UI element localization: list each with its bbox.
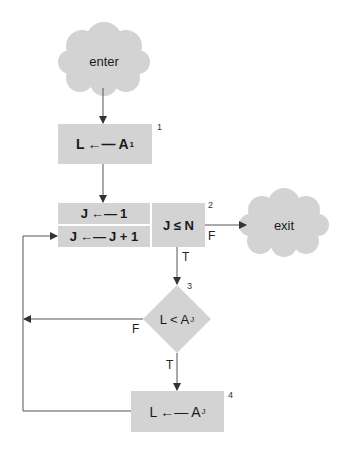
enter-label: enter (70, 50, 138, 72)
step1-rhs: A (118, 136, 128, 152)
assign-arrow-icon: ←— (160, 404, 188, 420)
edge-loop-back (23, 236, 131, 411)
test-true-label: T (182, 250, 189, 264)
compare-label: L < AJ (143, 308, 211, 330)
step1-rhs-subscript: 1 (130, 140, 134, 149)
compare-true-label: T (166, 358, 173, 372)
step1-label: L ←— A1 (58, 124, 152, 164)
assign-arrow-icon: ←— (91, 206, 117, 221)
step4-rhs-subscript: J (202, 407, 206, 416)
assign-arrow-icon: ←— (80, 229, 106, 244)
compare-subscript: J (190, 315, 194, 324)
step1-number: 1 (157, 122, 162, 132)
init-j-rhs: 1 (120, 206, 127, 221)
incr-j-rhs: J + 1 (109, 229, 138, 244)
exit-text: exit (274, 218, 294, 233)
step4-rhs: A (191, 404, 200, 420)
enter-text: enter (89, 54, 119, 69)
step4-label: L ←— AJ (131, 391, 224, 432)
init-j-lhs: J (81, 206, 88, 221)
test-j-label: J ≤ N (152, 203, 205, 247)
test-j-number: 2 (208, 200, 213, 210)
assign-arrow-icon: ←— (87, 136, 115, 152)
init-j-label: J ←— 1 (58, 203, 150, 224)
incr-j-label: J ←— J + 1 (58, 226, 150, 247)
exit-label: exit (250, 214, 318, 236)
compare-number: 3 (187, 281, 192, 291)
test-false-label: F (208, 229, 215, 243)
test-j-text: J ≤ N (163, 218, 194, 233)
step4-number: 4 (228, 390, 233, 400)
compare-text: L < A (160, 312, 190, 327)
step1-lhs: L (76, 136, 85, 152)
incr-j-lhs: J (70, 229, 77, 244)
step4-lhs: L (149, 404, 157, 420)
compare-false-label: F (132, 322, 139, 336)
